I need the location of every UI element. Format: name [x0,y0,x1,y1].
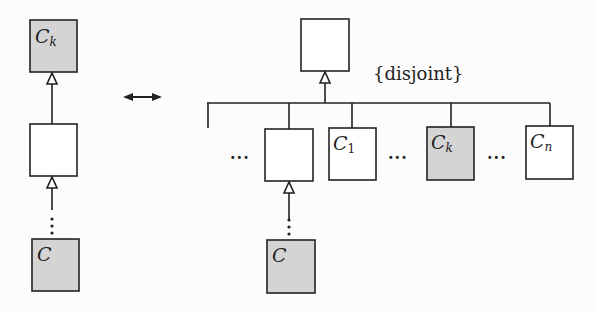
class-cn-label: Cn [530,132,552,153]
class-c1-label: C1 [333,134,355,155]
generalization-arrowhead-icon [320,72,330,83]
ellipsis: ... [487,146,507,162]
left-class-c-label: C [37,245,52,264]
disjoint-constraint-label: {disjoint} [373,65,463,83]
left-class-ck-label: Ck [35,27,57,48]
ellipsis: ... [230,146,250,162]
right-parent-class-box [301,19,349,71]
right-child-class-box [265,129,313,181]
generalization-arrowhead-icon [47,177,57,188]
generalization-arrowhead-icon [284,182,294,193]
ellipsis: ... [388,146,408,162]
class-ck-label: Ck [431,133,453,154]
generalization-arrowhead-icon [47,73,57,84]
right-class-c-label: C [272,246,287,265]
left-middle-class-box [30,124,77,176]
